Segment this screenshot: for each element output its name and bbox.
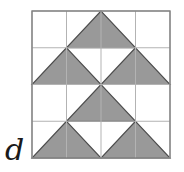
- figure-container: d: [0, 0, 184, 172]
- figure-label: d: [5, 132, 24, 167]
- tiling-figure: d: [0, 0, 184, 172]
